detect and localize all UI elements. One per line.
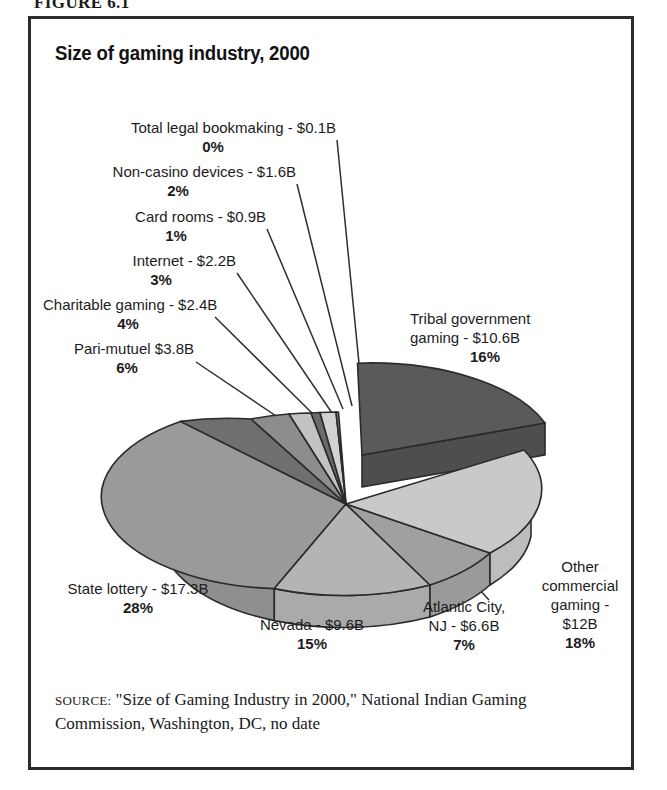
label-noncasino-percent: 2% bbox=[60, 181, 296, 200]
label-charitable-text: Charitable gaming - $2.4B bbox=[43, 296, 217, 313]
label-bookmaking-percent: 0% bbox=[90, 137, 336, 156]
label-lottery-text: State lottery - $17.3B bbox=[68, 580, 209, 597]
label-tribal-line2: gaming - $10.6B bbox=[410, 329, 520, 346]
label-bookmaking-text: Total legal bookmaking - $0.1B bbox=[131, 119, 336, 136]
label-parimutuel-percent: 6% bbox=[60, 358, 194, 377]
label-atlantic-city: Atlantic City, NJ - $6.6B 7% bbox=[406, 597, 522, 654]
label-internet-percent: 3% bbox=[86, 270, 236, 289]
label-internet: Internet - $2.2B 3% bbox=[86, 251, 236, 289]
label-cardrooms-percent: 1% bbox=[86, 226, 266, 245]
source-note: SOURCE: "Size of Gaming Industry in 2000… bbox=[55, 688, 575, 735]
label-atlantic-percent: 7% bbox=[406, 635, 522, 654]
label-other-commercial-gaming: Other commercial gaming - $12B 18% bbox=[528, 557, 632, 652]
source-text: "Size of Gaming Industry in 2000," Natio… bbox=[55, 690, 527, 733]
label-charitable-percent: 4% bbox=[43, 314, 213, 333]
label-nevada-percent: 15% bbox=[232, 634, 392, 653]
label-cardrooms-text: Card rooms - $0.9B bbox=[135, 208, 266, 225]
label-internet-text: Internet - $2.2B bbox=[133, 252, 236, 269]
label-nevada-text: Nevada - $9.6B bbox=[260, 616, 364, 633]
figure-number: FIGURE 6.1 bbox=[34, 0, 130, 13]
label-total-legal-bookmaking: Total legal bookmaking - $0.1B 0% bbox=[90, 118, 336, 156]
label-pari-mutuel: Pari-mutuel $3.8B 6% bbox=[60, 339, 194, 377]
label-tribal-line1: Tribal government bbox=[410, 310, 530, 327]
label-other-line2: commercial bbox=[542, 577, 619, 594]
label-tribal-government-gaming: Tribal government gaming - $10.6B 16% bbox=[410, 309, 590, 366]
label-non-casino-devices: Non-casino devices - $1.6B 2% bbox=[60, 162, 296, 200]
label-lottery-percent: 28% bbox=[43, 598, 233, 617]
label-nevada: Nevada - $9.6B 15% bbox=[232, 615, 392, 653]
label-charitable-gaming: Charitable gaming - $2.4B 4% bbox=[43, 295, 213, 333]
label-atlantic-line1: Atlantic City, bbox=[423, 598, 505, 615]
label-card-rooms: Card rooms - $0.9B 1% bbox=[86, 207, 266, 245]
label-other-percent: 18% bbox=[528, 633, 632, 652]
label-other-line3: gaming - bbox=[551, 596, 609, 613]
label-other-line4: $12B bbox=[562, 615, 597, 632]
chart-title: Size of gaming industry, 2000 bbox=[55, 42, 310, 65]
source-prefix: SOURCE: bbox=[55, 693, 111, 708]
label-atlantic-line2: NJ - $6.6B bbox=[429, 617, 500, 634]
label-noncasino-text: Non-casino devices - $1.6B bbox=[113, 163, 296, 180]
label-other-line1: Other bbox=[561, 558, 599, 575]
label-state-lottery: State lottery - $17.3B 28% bbox=[43, 579, 233, 617]
label-tribal-percent: 16% bbox=[410, 347, 560, 366]
label-parimutuel-text: Pari-mutuel $3.8B bbox=[74, 340, 194, 357]
